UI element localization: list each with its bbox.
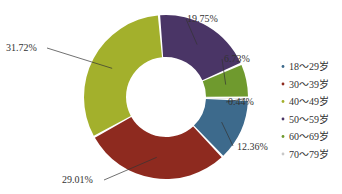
legend-item-label: 50～59岁 [289,113,329,125]
slice-label: 12.36% [237,141,268,152]
donut-chart: 12.36%29.01%31.72%19.75%6.73%0.44% 18～29… [0,0,342,194]
legend-marker [282,83,285,86]
legend-item-label: 60～69岁 [289,130,329,142]
legend-marker [282,135,285,138]
slice-label: 0.44% [228,96,254,107]
legend-marker [282,65,285,68]
slice-label: 19.75% [187,13,218,24]
legend: 18～29岁30～39岁40～49岁50～59岁60～69岁70～79岁 [282,60,329,160]
legend-item-label: 18～29岁 [289,60,329,72]
slice-label: 31.72% [6,42,37,53]
legend-marker [282,118,285,121]
legend-item-label: 30～39岁 [289,78,329,90]
legend-item-label: 70～79岁 [289,148,329,160]
slice-label: 6.73% [224,53,250,64]
donut-slices [84,15,248,179]
slice-2 [84,15,162,135]
slice-label: 29.01% [62,174,93,185]
legend-marker [282,153,285,156]
legend-marker [282,100,285,103]
legend-item-label: 40～49岁 [289,95,329,107]
